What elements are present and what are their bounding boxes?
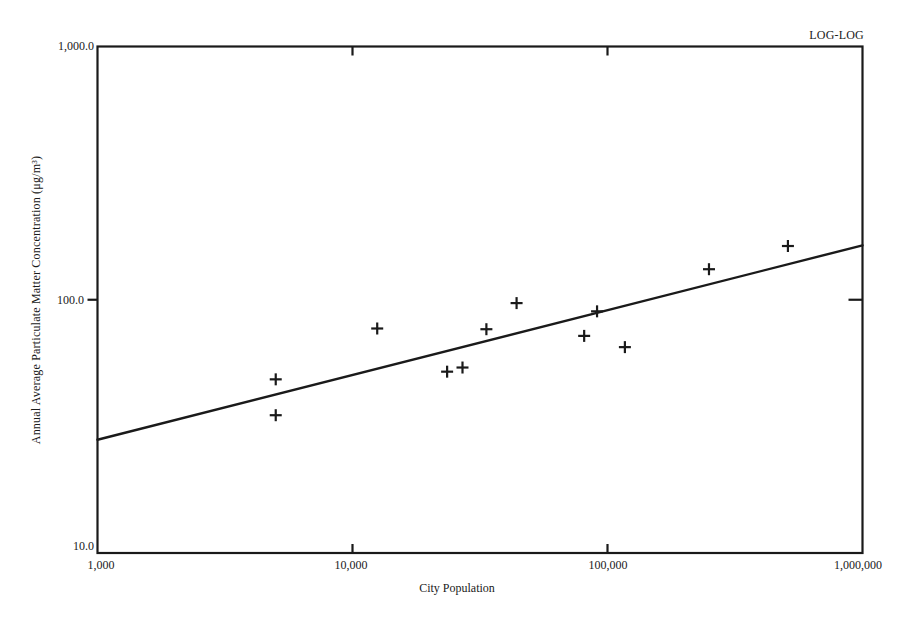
scale-annotation: LOG-LOG (809, 28, 864, 43)
plot-area (0, 0, 914, 625)
data-point-plus-icon (703, 263, 715, 275)
y-tick-label-10: 10.0 (14, 540, 94, 552)
data-point-plus-icon (456, 362, 468, 374)
data-point-plus-icon (591, 305, 603, 317)
regression-line (98, 245, 863, 439)
x-tick-label-1000: 1,000 (51, 559, 151, 571)
y-axis-title: Annual Average Particulate Matter Concen… (29, 156, 44, 444)
x-tick-label-1000000: 1,000,000 (808, 559, 908, 571)
data-point-plus-icon (371, 322, 383, 334)
data-point-plus-icon (270, 373, 282, 385)
data-point-plus-icon (782, 240, 794, 252)
y-tick-label-100: 100.0 (4, 294, 84, 306)
data-point-plus-icon (578, 330, 590, 342)
x-tick-label-10000: 10,000 (301, 559, 401, 571)
x-axis-title: City Population (0, 581, 914, 596)
data-point-plus-icon (480, 323, 492, 335)
axis-ticks (88, 47, 863, 554)
plot-frame (98, 47, 863, 554)
data-point-plus-icon (511, 297, 523, 309)
data-point-plus-icon (441, 366, 453, 378)
y-tick-label-1000: 1,000.0 (14, 40, 94, 52)
data-point-plus-icon (619, 341, 631, 353)
data-point-plus-icon (270, 409, 282, 421)
x-tick-label-100000: 100,000 (558, 559, 658, 571)
